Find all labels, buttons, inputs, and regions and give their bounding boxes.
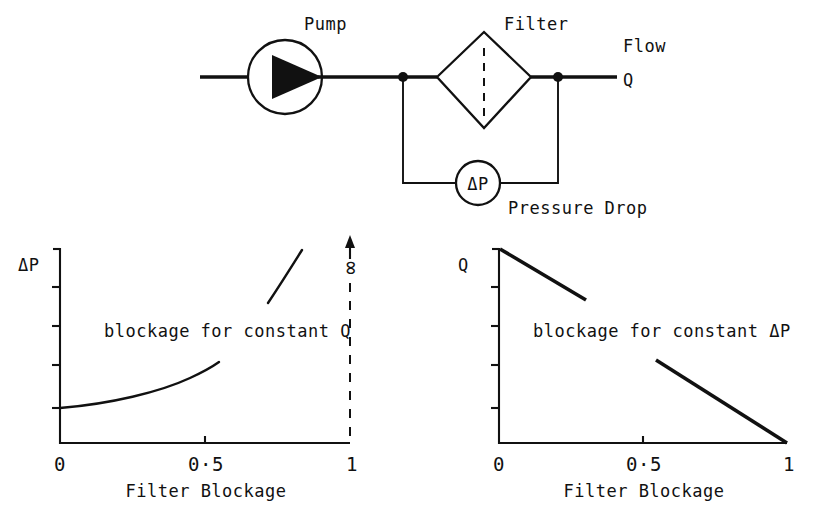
left-infinity-arrow-icon [345,235,355,259]
left-curve-high-branch [268,250,302,303]
pressure-drop-label: Pressure Drop [508,198,648,218]
filter-label: Filter [504,14,568,34]
left-xaxis-label: Filter Blockage [125,481,286,501]
right-line-lower-branch [656,360,787,443]
pump-label: Pump [304,14,347,34]
bypass-loop-left-leg [403,79,456,183]
left-xtick-label-1: 1 [346,453,358,475]
figure-canvas: ΔP Pump Filter Flow Q Pressure Drop [0,0,822,524]
right-xtick-label-1: 1 [783,453,795,475]
chart-delta-p-vs-blockage: ∞ ΔP blockage for constant Q 0 0·5 1 Fil… [18,235,364,501]
chart-q-vs-blockage: Q blockage for constant ΔP 0 0·5 1 Filte… [458,248,795,501]
left-xtick-label-half: 0·5 [188,453,224,475]
right-xaxis-label: Filter Blockage [563,481,724,501]
flow-symbol-label: Q [623,70,634,90]
flow-label: Flow [623,36,666,56]
left-chart-axes [60,248,350,443]
pump-direction-triangle-icon [272,55,322,99]
left-xtick-label-0: 0 [54,453,66,475]
left-annotation: blockage for constant Q [104,321,351,341]
hydraulic-schematic: ΔP Pump Filter Flow Q Pressure Drop [200,14,666,218]
pressure-drop-symbol: ΔP [467,174,488,194]
left-yaxis-label: ΔP [18,255,39,275]
right-xtick-label-half: 0·5 [626,453,662,475]
left-curve-low-branch [60,362,219,408]
right-xtick-label-0: 0 [493,453,505,475]
right-annotation: blockage for constant ΔP [533,321,791,341]
right-line-upper-branch [500,249,586,300]
bypass-loop-right-leg [500,79,558,183]
left-infinity-symbol: ∞ [339,261,364,275]
right-yaxis-label: Q [458,255,469,275]
